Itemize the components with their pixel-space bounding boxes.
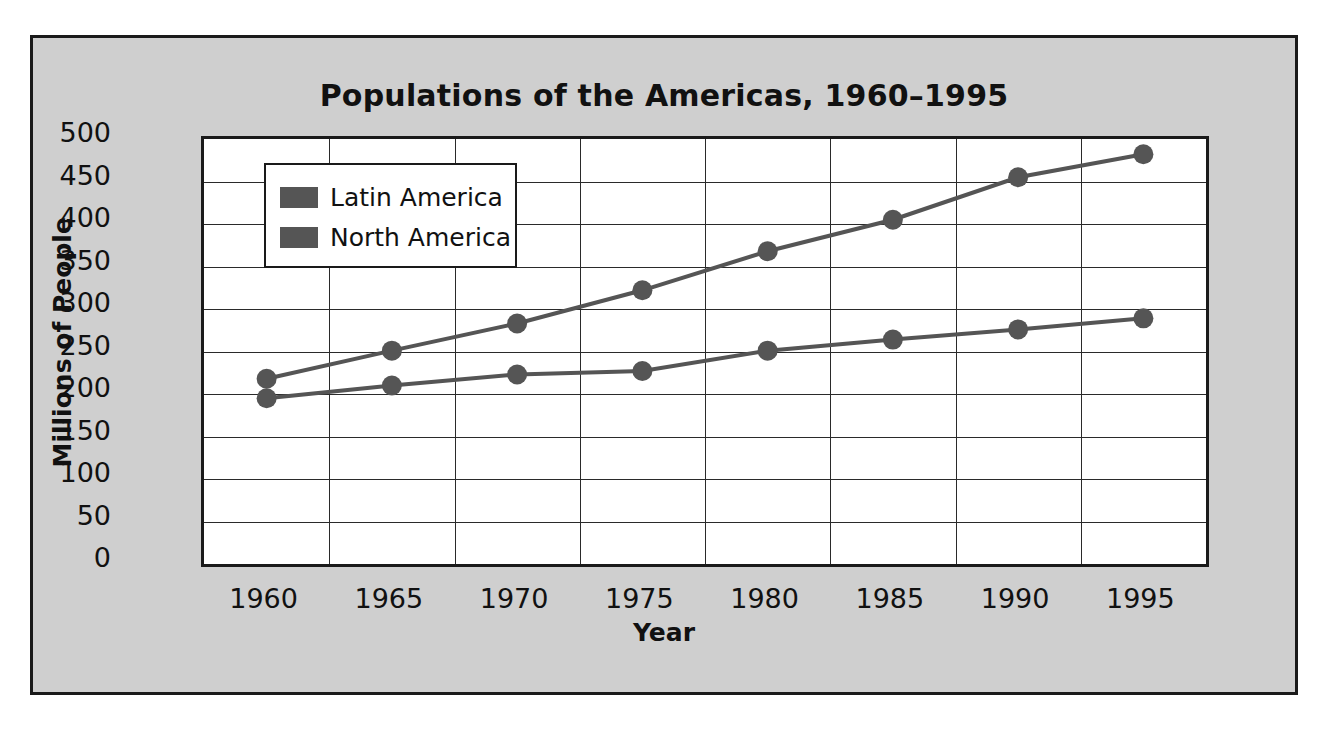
gridline-vertical	[956, 139, 957, 564]
x-axis-tick-label: 1960	[204, 583, 324, 614]
x-axis-tick-label: 1980	[705, 583, 825, 614]
x-axis-title: Year	[33, 618, 1295, 647]
legend-label: North America	[330, 223, 511, 252]
y-axis-tick-label: 150	[0, 417, 111, 444]
legend-item-north-america: North America	[280, 217, 515, 257]
chart-legend: Latin America North America	[264, 163, 517, 268]
y-axis-tick-label: 450	[0, 162, 111, 189]
data-point-marker	[632, 280, 652, 300]
legend-swatch-icon	[280, 227, 318, 248]
chart-figure: Populations of the Americas, 1960–1995 M…	[30, 35, 1298, 695]
data-point-marker	[883, 210, 903, 230]
data-point-marker	[257, 388, 277, 408]
x-axis-tick-label: 1990	[955, 583, 1075, 614]
legend-label: Latin America	[330, 183, 503, 212]
legend-item-latin-america: Latin America	[280, 177, 515, 217]
gridline-vertical	[705, 139, 706, 564]
x-axis-tick-label: 1995	[1080, 583, 1200, 614]
data-point-marker	[883, 330, 903, 350]
data-point-marker	[1008, 167, 1028, 187]
y-axis-tick-label: 500	[0, 119, 111, 146]
data-point-marker	[257, 369, 277, 389]
x-axis-tick-label: 1965	[329, 583, 449, 614]
gridline-vertical	[1081, 139, 1082, 564]
chart-title: Populations of the Americas, 1960–1995	[33, 78, 1295, 113]
y-axis-tick-label: 200	[0, 374, 111, 401]
data-point-marker	[1133, 308, 1153, 328]
gridline-vertical	[830, 139, 831, 564]
data-point-marker	[382, 376, 402, 396]
x-axis-tick-label: 1970	[454, 583, 574, 614]
data-point-marker	[1133, 144, 1153, 164]
legend-swatch-icon	[280, 187, 318, 208]
y-axis-tick-label: 350	[0, 247, 111, 274]
data-point-marker	[507, 364, 527, 384]
x-axis-tick-label: 1985	[830, 583, 950, 614]
y-axis-tick-label: 0	[0, 544, 111, 571]
x-axis-tick-label: 1975	[579, 583, 699, 614]
gridline-vertical	[580, 139, 581, 564]
data-point-marker	[632, 361, 652, 381]
y-axis-tick-label: 100	[0, 459, 111, 486]
data-point-marker	[507, 313, 527, 333]
data-point-marker	[1008, 319, 1028, 339]
y-axis-tick-label: 300	[0, 289, 111, 316]
y-axis-tick-label: 250	[0, 332, 111, 359]
y-axis-tick-label: 50	[0, 502, 111, 529]
data-point-marker	[758, 241, 778, 261]
y-axis-tick-label: 400	[0, 204, 111, 231]
